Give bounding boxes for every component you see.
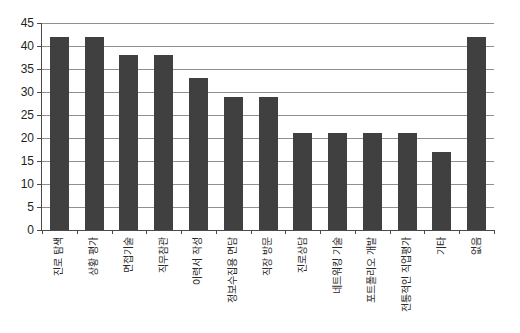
- y-axis-tick-label: 40: [0, 39, 34, 53]
- x-axis-tick-mark: [320, 230, 321, 234]
- x-axis-tick-mark: [390, 230, 391, 234]
- bar: [363, 133, 382, 230]
- y-gridline: [42, 69, 494, 70]
- x-axis-category-label: 진로 탐색: [53, 237, 65, 276]
- x-axis-category-label: 진로상담: [297, 237, 309, 273]
- y-axis-tick-label: 0: [0, 223, 34, 237]
- x-axis-tick-mark: [216, 230, 217, 234]
- x-axis-tick-mark: [355, 230, 356, 234]
- bar: [224, 97, 243, 230]
- x-axis-category-label: 없음: [471, 237, 483, 255]
- y-axis-tick-label: 20: [0, 131, 34, 145]
- bar: [119, 55, 138, 230]
- y-axis-tick-mark: [37, 115, 42, 116]
- y-gridline: [42, 92, 494, 93]
- bar: [50, 37, 69, 230]
- x-axis-category-label: 기타: [436, 237, 448, 255]
- y-axis-tick-mark: [37, 184, 42, 185]
- x-axis-category-label: 상황 평가: [88, 237, 100, 276]
- y-axis-tick-label: 45: [0, 16, 34, 30]
- bar: [398, 133, 417, 230]
- x-axis-category-label: 네트워킹 기술: [332, 237, 344, 294]
- y-axis-tick-label: 30: [0, 85, 34, 99]
- x-axis-tick-mark: [77, 230, 78, 234]
- x-axis-category-label: 이력서 작성: [192, 237, 204, 285]
- x-axis-category-label: 포트폴리오 개발: [366, 237, 378, 303]
- plot-area: 051015202530354045진로 탐색상황 평가면접기술직무참관이력서 …: [41, 23, 494, 231]
- x-axis-tick-mark: [112, 230, 113, 234]
- x-axis-category-label: 직장 방문: [262, 237, 274, 276]
- x-axis-category-label: 정보수집용 면담: [227, 237, 239, 303]
- x-axis-tick-mark: [459, 230, 460, 234]
- y-axis-tick-mark: [37, 138, 42, 139]
- x-axis-category-label: 전통적인 직업평가: [401, 237, 413, 312]
- x-axis-tick-mark: [146, 230, 147, 234]
- bar: [259, 97, 278, 230]
- y-axis-tick-mark: [37, 46, 42, 47]
- bar-chart-figure: 051015202530354045진로 탐색상황 평가면접기술직무참관이력서 …: [0, 0, 520, 333]
- x-axis-category-label: 직무참관: [158, 237, 170, 273]
- bar: [85, 37, 104, 230]
- bar: [432, 152, 451, 230]
- bar: [467, 37, 486, 230]
- y-axis-tick-mark: [37, 69, 42, 70]
- y-axis-tick-mark: [37, 23, 42, 24]
- y-axis-tick-label: 15: [0, 154, 34, 168]
- x-axis-tick-mark: [251, 230, 252, 234]
- y-gridline: [42, 23, 494, 24]
- x-axis-tick-mark: [494, 230, 495, 234]
- bar: [154, 55, 173, 230]
- y-axis-tick-label: 5: [0, 200, 34, 214]
- y-axis-tick-label: 10: [0, 177, 34, 191]
- x-axis-tick-mark: [181, 230, 182, 234]
- x-axis-tick-mark: [285, 230, 286, 234]
- x-axis-category-label: 면접기술: [123, 237, 135, 273]
- y-axis-tick-mark: [37, 92, 42, 93]
- y-axis-tick-label: 35: [0, 62, 34, 76]
- y-gridline: [42, 46, 494, 47]
- bar: [189, 78, 208, 230]
- y-axis-tick-mark: [37, 207, 42, 208]
- x-axis-tick-mark: [424, 230, 425, 234]
- x-axis-tick-mark: [42, 230, 43, 234]
- bar: [328, 133, 347, 230]
- bar: [293, 133, 312, 230]
- y-axis-tick-mark: [37, 161, 42, 162]
- y-axis-tick-label: 25: [0, 108, 34, 122]
